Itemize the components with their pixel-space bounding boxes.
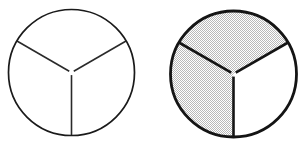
fraction-circles-figure [0, 0, 303, 153]
left-circle-group [8, 9, 134, 135]
right-circle-group [170, 11, 296, 137]
figure-container [0, 0, 303, 153]
